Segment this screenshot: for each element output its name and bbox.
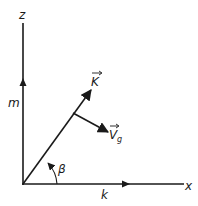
group-velocity-vector — [73, 113, 108, 132]
angle-beta-arc — [48, 163, 57, 184]
wave-vector-diagram: z x m k K V g β — [0, 0, 198, 206]
wave-vector-k — [23, 90, 91, 184]
x-axis-arrow-icon — [122, 181, 130, 188]
x-axis-label: x — [184, 179, 193, 193]
m-component-label: m — [8, 96, 20, 110]
z-axis-label: z — [18, 8, 26, 22]
svg-text:K: K — [91, 75, 100, 89]
wave-vector-label: K — [91, 71, 102, 89]
angle-beta-label: β — [57, 162, 66, 176]
svg-text:g: g — [117, 135, 122, 144]
z-axis-arrow-icon — [20, 78, 27, 86]
k-component-label: k — [101, 188, 109, 202]
group-velocity-label: V g — [109, 124, 122, 144]
